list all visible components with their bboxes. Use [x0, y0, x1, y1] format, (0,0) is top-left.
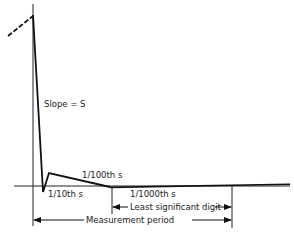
least-significant-digit-label: Least significant digit: [130, 202, 222, 212]
slope-label: Slope = S: [44, 99, 86, 109]
measurement-timing-diagram: Slope = S 1/100th s 1/10th s 1/1000th s …: [0, 0, 294, 236]
thousandth-second-label: 1/1000th s: [130, 189, 176, 199]
tenth-second-label: 1/10th s: [48, 189, 84, 199]
measurement-period-label: Measurement period: [86, 215, 174, 225]
incoming-ramp-dashed: [8, 16, 33, 36]
hundredth-second-label: 1/100th s: [82, 170, 123, 180]
